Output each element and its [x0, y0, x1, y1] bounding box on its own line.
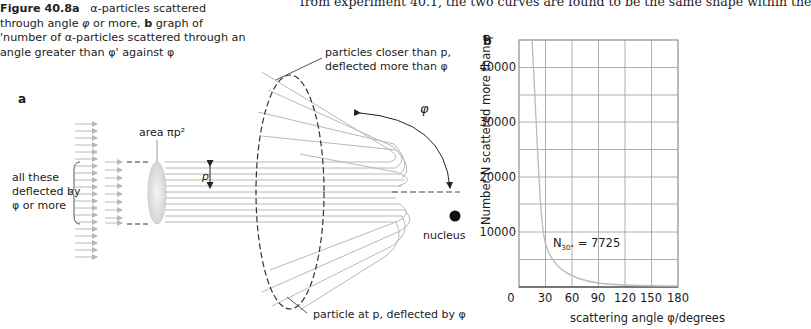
chart-annotation: N30° = 7725 — [553, 236, 620, 252]
x-tick-180: 180 — [663, 291, 693, 305]
x-tick-150: 150 — [636, 291, 666, 305]
x-axis-label: scattering angle φ/degrees — [570, 311, 725, 325]
bracket-label-2: deflected by — [12, 185, 81, 198]
angle-phi-label: φ — [420, 101, 429, 116]
bracket-label-1: all these — [12, 171, 59, 184]
x-tick-0: 0 — [496, 291, 526, 305]
y-tick-40000: 40000 — [470, 60, 516, 74]
y-tick-20000: 20000 — [470, 170, 516, 184]
annotation-sub: 30° — [562, 244, 574, 252]
annotation-value: = 7725 — [578, 236, 621, 250]
incoming-beam-arrows — [75, 124, 122, 257]
top-callout-2: deflected more than φ — [325, 60, 448, 73]
panel-label-a: a — [18, 92, 26, 106]
bracket-label-3: φ or more — [12, 199, 66, 212]
bottom-callout: particle at p, deflected by φ — [313, 308, 466, 321]
bracket-label: all these deflected by φ or more — [12, 171, 81, 213]
annotation-base: N — [553, 236, 562, 250]
x-tick-90: 90 — [583, 291, 613, 305]
nucleus-label: nucleus — [423, 229, 466, 242]
y-tick-30000: 30000 — [470, 115, 516, 129]
x-tick-30: 30 — [530, 291, 560, 305]
cross-section-disc — [148, 162, 166, 224]
top-callout-1: particles closer than p, — [325, 46, 451, 59]
area-label: area πp² — [139, 126, 185, 139]
p-label: p — [202, 170, 209, 183]
y-tick-10000: 10000 — [470, 225, 516, 239]
top-callout: particles closer than p, deflected more … — [325, 46, 451, 74]
nucleus-dot — [450, 211, 461, 222]
